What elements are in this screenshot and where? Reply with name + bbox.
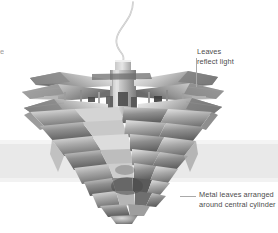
annotation-line-1: Leaves <box>197 47 234 57</box>
annotation-line-2: around central cylinder <box>199 200 276 210</box>
annotation-line-1: Metal leaves arranged <box>199 190 276 200</box>
leader-line-metal-leaves <box>180 196 196 197</box>
annotation-metal-leaves-cylinder: Metal leaves arranged around central cyl… <box>199 190 276 209</box>
leaf-tier-10 <box>92 191 166 224</box>
illustration-canvas: e <box>0 0 278 233</box>
annotation-line-2: reflect light <box>197 57 234 67</box>
suspension-cord <box>116 2 133 62</box>
annotation-leaves-reflect-light: Leaves reflect light <box>197 47 234 66</box>
